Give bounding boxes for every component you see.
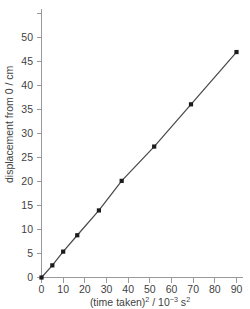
x-tick-label: 90 — [231, 283, 243, 295]
x-axis-title-base2: s — [178, 296, 186, 308]
y-tick-labels: 0 5 10 15 20 25 30 35 40 45 50 — [21, 31, 33, 283]
data-point-marker — [50, 263, 54, 267]
x-tick-label: 80 — [209, 283, 221, 295]
y-tick-label: 0 — [27, 271, 33, 283]
x-tick-label: 0 — [39, 283, 45, 295]
x-axis-title: (time taken)2 / 10−3 s2 — [90, 295, 190, 308]
x-tick-labels: 0 10 20 30 40 50 60 70 80 90 — [39, 283, 243, 295]
x-tick-label: 10 — [57, 283, 69, 295]
data-point-marker — [75, 233, 79, 237]
y-tick-label: 5 — [27, 247, 33, 259]
data-point-marker — [97, 208, 101, 212]
data-point-marker — [234, 50, 238, 54]
x-axis-title-sup2: −3 — [170, 295, 178, 304]
y-axis-title: displacement from 0 / cm — [3, 65, 15, 183]
series-line — [42, 52, 237, 277]
x-tick-label: 50 — [144, 283, 156, 295]
x-axis-title-mid: / 10 — [149, 296, 170, 308]
x-tick-marks — [42, 278, 237, 283]
y-tick-label: 45 — [21, 55, 33, 67]
y-tick-label: 30 — [21, 127, 33, 139]
y-tick-label: 35 — [21, 103, 33, 115]
y-tick-label: 40 — [21, 79, 33, 91]
x-tick-label: 30 — [101, 283, 113, 295]
svg-text:(time taken)2 / 10−3 s2: (time taken)2 / 10−3 s2 — [90, 295, 190, 308]
data-series — [39, 50, 238, 280]
y-tick-label: 15 — [21, 199, 33, 211]
y-axis-title-text: displacement from 0 / cm — [3, 65, 15, 183]
data-point-marker — [61, 250, 65, 254]
scatter-line-plot: 0 5 10 15 20 25 30 35 40 45 50 0 — [0, 0, 250, 309]
data-point-marker — [152, 144, 156, 148]
x-axis-title-sup3: 2 — [186, 295, 190, 304]
x-tick-label: 20 — [79, 283, 91, 295]
y-tick-label: 25 — [21, 151, 33, 163]
data-point-marker — [120, 179, 124, 183]
x-tick-label: 70 — [187, 283, 199, 295]
y-tick-label: 10 — [21, 223, 33, 235]
x-tick-label: 60 — [166, 283, 178, 295]
y-tick-marks — [37, 14, 42, 278]
x-axis-title-base1: (time taken) — [90, 296, 145, 308]
chart-figure: 0 5 10 15 20 25 30 35 40 45 50 0 — [0, 0, 250, 309]
y-tick-label: 20 — [21, 175, 33, 187]
data-point-marker — [189, 102, 193, 106]
y-tick-label: 50 — [21, 31, 33, 43]
data-point-marker — [39, 275, 43, 279]
x-tick-label: 40 — [122, 283, 134, 295]
